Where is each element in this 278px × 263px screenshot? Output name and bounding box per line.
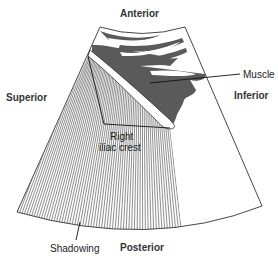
- label-inferior: Inferior: [234, 90, 268, 101]
- label-anterior: Anterior: [120, 8, 159, 19]
- label-posterior: Posterior: [120, 242, 164, 253]
- label-crest-line2: iliac crest: [99, 142, 141, 153]
- label-muscle: Muscle: [243, 69, 275, 80]
- label-crest-line1: Right: [110, 131, 133, 142]
- label-superior: Superior: [6, 92, 47, 103]
- label-shadowing: Shadowing: [50, 243, 99, 254]
- ultrasound-sector-diagram: [0, 0, 278, 263]
